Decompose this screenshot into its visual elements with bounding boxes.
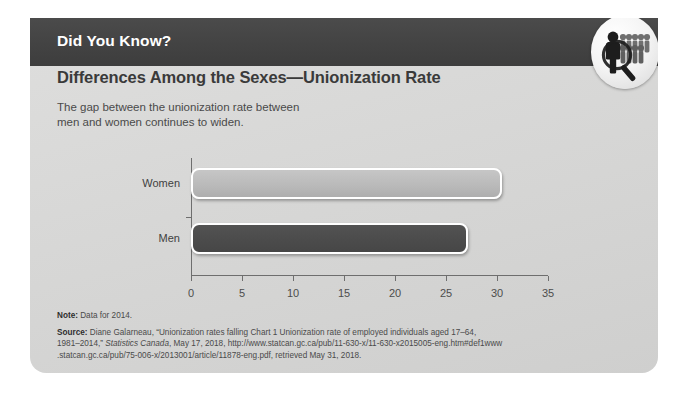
footnotes: Note: Data for 2014. Source: Diane Galar… bbox=[57, 310, 637, 361]
subtitle-line-1: The gap between the unionization rate be… bbox=[57, 100, 299, 115]
chart-x-tick bbox=[497, 276, 498, 281]
page-subtitle: The gap between the unionization rate be… bbox=[57, 100, 299, 130]
page-title: Differences Among the Sexes—Unionization… bbox=[57, 68, 441, 87]
chart-plot-area: 05101520253035WomenMen bbox=[191, 158, 548, 276]
source-row: Source: Diane Galarneau, “Unionization r… bbox=[57, 327, 637, 362]
chart-x-tick-label: 35 bbox=[542, 287, 554, 299]
chart-x-tick-label: 5 bbox=[239, 287, 245, 299]
subtitle-line-2: men and women continues to widen. bbox=[57, 115, 299, 130]
did-you-know-card: Did You Know? bbox=[30, 18, 658, 373]
chart-x-tick bbox=[446, 276, 447, 281]
page-root: Did You Know? bbox=[0, 0, 688, 395]
source-line-2: 1981–2014,” Statistics Canada, May 17, 2… bbox=[57, 338, 637, 350]
source-line-1: Source: Diane Galarneau, “Unionization r… bbox=[57, 327, 637, 339]
source-line-2-prefix: 1981–2014,” bbox=[57, 339, 105, 348]
source-publication: Statistics Canada bbox=[105, 339, 169, 348]
card-header-bar: Did You Know? bbox=[30, 18, 658, 66]
chart-x-tick-label: 15 bbox=[338, 287, 350, 299]
chart-x-tick bbox=[344, 276, 345, 281]
card-header-title: Did You Know? bbox=[57, 32, 171, 50]
chart-x-tick-label: 30 bbox=[491, 287, 503, 299]
chart-x-tick-label: 10 bbox=[287, 287, 299, 299]
chart-bar-women bbox=[191, 168, 502, 199]
chart-y-tick-mid bbox=[186, 217, 191, 218]
chart-x-tick bbox=[293, 276, 294, 281]
chart-x-tick-label: 20 bbox=[389, 287, 401, 299]
chart-bar-men bbox=[191, 223, 468, 254]
people-magnifier-icon bbox=[591, 18, 658, 89]
chart-x-tick bbox=[395, 276, 396, 281]
source-label: Source: bbox=[57, 328, 87, 337]
chart-x-tick bbox=[191, 276, 192, 281]
chart-x-axis bbox=[191, 275, 548, 276]
unionization-bar-chart: 05101520253035WomenMen bbox=[30, 146, 658, 306]
chart-category-label-women: Women bbox=[142, 177, 180, 189]
note-label: Note: bbox=[57, 311, 78, 320]
note-row: Note: Data for 2014. bbox=[57, 310, 637, 322]
source-line-3: .statcan.gc.ca/pub/75-006-x/2013001/arti… bbox=[57, 350, 637, 362]
chart-category-label-men: Men bbox=[159, 232, 180, 244]
chart-x-tick bbox=[548, 276, 549, 281]
chart-x-tick-label: 0 bbox=[188, 287, 194, 299]
note-text: Data for 2014. bbox=[78, 311, 132, 320]
source-line-1-text: Diane Galarneau, “Unionization rates fal… bbox=[87, 328, 476, 337]
chart-x-tick-label: 25 bbox=[440, 287, 452, 299]
source-line-2-suffix: , May 17, 2018, http://www.statcan.gc.ca… bbox=[169, 339, 502, 348]
chart-x-tick bbox=[242, 276, 243, 281]
